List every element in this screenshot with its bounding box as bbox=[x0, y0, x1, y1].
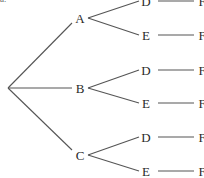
node-c-d: D bbox=[141, 131, 150, 144]
node-c-e: E bbox=[142, 165, 150, 178]
node-leaf-f-3: F bbox=[198, 97, 204, 110]
edge-root-c bbox=[8, 88, 72, 150]
node-leaf-f-4: F bbox=[198, 131, 204, 144]
node-a-e: E bbox=[142, 29, 150, 42]
edge-root-a bbox=[8, 23, 72, 88]
node-a: A bbox=[75, 12, 84, 25]
node-b-d: D bbox=[141, 64, 150, 77]
node-c: C bbox=[76, 149, 85, 162]
node-leaf-f-1: F bbox=[198, 29, 204, 42]
node-b-e: E bbox=[142, 97, 150, 110]
node-a-d: D bbox=[141, 0, 150, 8]
node-leaf-f-0: F bbox=[198, 0, 204, 8]
node-b: B bbox=[76, 82, 85, 95]
edge-a-d bbox=[88, 1, 139, 18]
edge-c-d bbox=[88, 137, 139, 155]
edge-a-e bbox=[88, 18, 139, 35]
edge-c-e bbox=[88, 155, 139, 171]
tree-edges bbox=[0, 0, 204, 177]
tree-diagram: a. ABCDEDEDEFFFFFF bbox=[0, 0, 204, 177]
edge-b-d bbox=[88, 70, 139, 88]
edge-b-e bbox=[88, 88, 139, 103]
node-leaf-f-2: F bbox=[198, 64, 204, 77]
node-leaf-f-5: F bbox=[198, 165, 204, 178]
